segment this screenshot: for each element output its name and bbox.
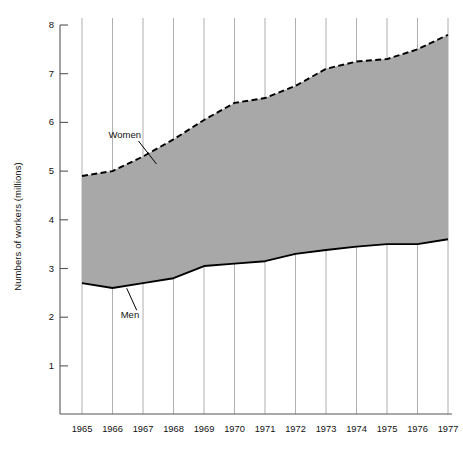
y-tick-label-2: 2 bbox=[36, 311, 54, 322]
y-tick-label-1: 1 bbox=[36, 360, 54, 371]
y-tick-label-3: 3 bbox=[36, 263, 54, 274]
y-tick-label-8: 8 bbox=[36, 19, 54, 30]
x-tick-label-1975: 1975 bbox=[370, 424, 404, 434]
x-tick-label-1968: 1968 bbox=[157, 424, 191, 434]
axis-ticks bbox=[60, 25, 68, 366]
x-tick-label-1965: 1965 bbox=[65, 424, 99, 434]
y-tick-label-4: 4 bbox=[36, 214, 54, 225]
annotation-women: Women bbox=[109, 129, 142, 140]
y-tick-label-7: 7 bbox=[36, 68, 54, 79]
y-tick-label-6: 6 bbox=[36, 116, 54, 127]
x-tick-label-1976: 1976 bbox=[401, 424, 435, 434]
annotation-men: Men bbox=[121, 309, 139, 320]
x-tick-label-1973: 1973 bbox=[309, 424, 343, 434]
x-tick-label-1967: 1967 bbox=[126, 424, 160, 434]
x-tick-label-1971: 1971 bbox=[248, 424, 282, 434]
leader-line-men bbox=[127, 288, 137, 310]
x-tick-label-1977: 1977 bbox=[431, 424, 463, 434]
x-tick-label-1970: 1970 bbox=[218, 424, 252, 434]
x-tick-label-1966: 1966 bbox=[96, 424, 130, 434]
x-tick-label-1972: 1972 bbox=[279, 424, 313, 434]
y-tick-label-5: 5 bbox=[36, 165, 54, 176]
x-tick-label-1969: 1969 bbox=[187, 424, 221, 434]
x-tick-label-1974: 1974 bbox=[340, 424, 374, 434]
